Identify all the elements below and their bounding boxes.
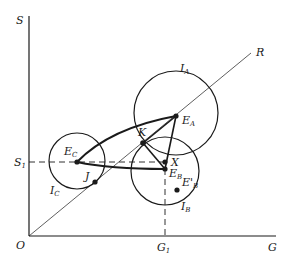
line-k-eb (143, 143, 165, 169)
point-ec-label: EC (63, 145, 78, 159)
g1-label: G1 (157, 241, 170, 255)
curve-ec-eb (77, 162, 165, 169)
point-ea (173, 113, 178, 118)
point-eb-prime-label: E'B (181, 176, 198, 190)
point-eb (162, 166, 167, 171)
point-eb-label: EB (168, 167, 182, 181)
indifference-diagram: S G O S1 G1 R IA IB IC EA EB EC E'B K X … (0, 0, 288, 263)
ray-r (29, 53, 251, 236)
point-k (140, 140, 146, 146)
origin-label: O (16, 239, 25, 252)
curve-ec-ea (77, 116, 176, 162)
y-axis-label: S (16, 14, 24, 27)
circle-ic-label: IC (49, 184, 60, 198)
point-eb-prime (174, 187, 179, 192)
point-k-label: K (137, 126, 147, 139)
circle-ia-label: IA (179, 62, 189, 76)
ray-label: R (255, 46, 264, 59)
point-x-label: X (170, 156, 180, 169)
circle-ib-label: IB (180, 200, 191, 214)
s1-label: S1 (14, 156, 26, 170)
point-ec (74, 159, 79, 164)
x-axis-label: G (268, 241, 277, 254)
point-j-label: J (83, 170, 90, 183)
point-ea-label: EA (181, 114, 195, 128)
point-x (162, 159, 167, 164)
point-j (92, 179, 97, 184)
